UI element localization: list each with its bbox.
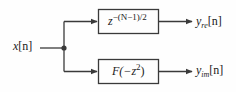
block-filter-prefix: F(−z [112,64,136,78]
output-real-subscript: re [201,21,207,30]
block-filter-expression: F(−z2) [112,65,145,77]
output-imag-subscript: im [201,70,209,79]
block-filter-suffix: ) [141,64,145,78]
output-imag-index: [n] [209,63,223,77]
output-signal-imag-label: yim[n] [196,64,223,76]
block-delay-exponent: −(N−1)/2 [113,12,147,22]
block-delay-expression: z−(N−1)/2 [108,15,147,27]
output-signal-real-label: yre[n] [196,15,222,27]
block-diagram: x[n] z−(N−1)/2 F(−z2) yre[n] yim[n] [0,0,236,92]
block-filter-exponent: 2 [136,62,141,72]
input-signal-index: [n] [18,39,32,53]
output-real-index: [n] [208,14,222,28]
input-signal-label: x[n] [13,40,32,52]
block-delay-base: z [108,14,113,28]
branch-point-dot [61,45,66,50]
